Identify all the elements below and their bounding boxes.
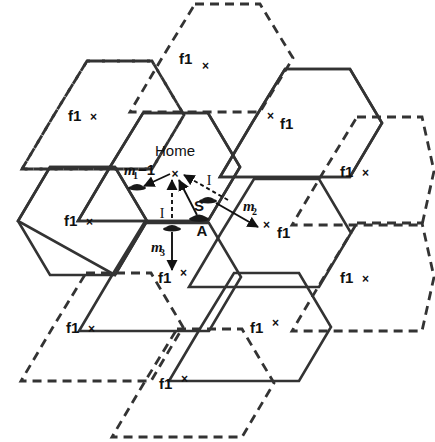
svg-text:−1: −1 [138,161,155,178]
m1-label: m 1 −1 [124,161,155,181]
svg-text:×: × [202,59,209,73]
vehicle-icon-m3 [163,225,181,232]
svg-text:×: × [180,266,187,280]
svg-text:f1: f1 [64,212,77,229]
svg-text:f1: f1 [158,269,171,286]
cell-label-right: × f1 [263,218,290,241]
mobile-label: A [197,222,208,239]
home-label: Home [155,142,195,159]
cell-label-top: f1 × [179,50,209,73]
svg-text:f1: f1 [68,107,81,124]
figure-canvas: × f1 × f1 × × f1 f1 × Home f1 × × [0,0,435,442]
cell-label-bottom-right: f1 × [250,316,279,336]
vehicle-icon-a [189,215,209,222]
cell-label-top-left: f1 × [68,107,97,124]
svg-text:f1: f1 [280,115,293,132]
svg-text:×: × [362,272,369,286]
svg-text:×: × [86,215,93,229]
vehicle-icon-m1 [128,184,146,191]
cell-outline-bottom-left [21,273,183,381]
svg-text:×: × [181,372,188,386]
cell-outline-bottom [112,329,274,437]
svg-text:×: × [88,322,95,336]
svg-text:×: × [362,166,369,180]
signal-label: S [194,197,204,214]
interference-label-left: I [160,206,165,221]
svg-text:×: × [267,109,274,123]
m3-label: m 3 [151,239,165,258]
svg-text:2: 2 [252,206,257,217]
cell-label-right-lower: f1 × [340,269,369,286]
svg-text:f1: f1 [159,375,172,392]
svg-text:×: × [263,218,270,232]
interference-label-right: I [207,173,212,188]
svg-text:3: 3 [160,247,165,258]
svg-text:f1: f1 [340,269,353,286]
svg-text:×: × [90,110,97,124]
bs-mark-home: × [171,167,178,181]
hex-grid-svg: × f1 × f1 × × f1 f1 × Home f1 × × [0,0,435,442]
svg-text:f1: f1 [250,319,263,336]
svg-text:×: × [272,316,279,330]
svg-text:f1: f1 [179,50,192,67]
svg-text:f1: f1 [340,163,353,180]
cell-outline-top-right [220,69,382,177]
svg-text:f1: f1 [277,224,290,241]
m2-label: m 2 [243,198,257,217]
cell-label-top-right: × f1 [267,109,293,132]
svg-text:f1: f1 [66,319,79,336]
